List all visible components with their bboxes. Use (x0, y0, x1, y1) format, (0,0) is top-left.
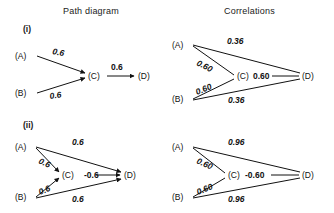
node-d: (D) (302, 170, 314, 180)
panel-path-diagram-ii: (A) (B) (C) (D) 0.6 0.6 -0.6 0.6 0.6 (15, 137, 136, 204)
node-d: (D) (138, 71, 150, 81)
edge-label-a-c: 0.60 (195, 156, 214, 172)
edge-label-c-d: 0.6 (111, 62, 123, 72)
panel-correlations-ii: (A) (B) (C) (D) 0.96 0.60 -0.60 0.60 0.9… (172, 137, 314, 204)
edge-label-b-d: 0.36 (228, 95, 245, 105)
diagram-svg: (A) (B) (C) (D) 0.6 0.6 0.6 (A) (B) (C) … (0, 0, 334, 213)
node-c: (C) (88, 71, 100, 81)
figure-canvas: Path diagram Correlations (i) (ii) (A) (… (0, 0, 334, 213)
edge-label-a-d: 0.6 (72, 137, 84, 147)
edge-label-a-c: 0.6 (37, 156, 52, 170)
edge-label-c-d: 0.60 (253, 71, 270, 81)
node-c: (C) (228, 170, 240, 180)
edge-b-to-c (37, 78, 85, 93)
node-d: (D) (302, 71, 314, 81)
edge-label-a-c: 0.6 (52, 46, 66, 58)
node-b: (B) (15, 88, 27, 98)
node-a: (A) (172, 142, 184, 152)
node-c: (C) (62, 170, 74, 180)
panel-path-diagram-i: (A) (B) (C) (D) 0.6 0.6 0.6 (15, 46, 150, 101)
edge-label-b-d: 0.96 (228, 194, 245, 204)
node-a: (A) (172, 40, 184, 50)
node-d: (D) (124, 170, 136, 180)
edge-label-b-c: 0.60 (194, 81, 213, 97)
edge-a-to-c (37, 56, 85, 73)
node-b: (B) (172, 192, 184, 202)
edge-label-a-d: 0.96 (228, 137, 245, 147)
node-c: (C) (237, 71, 249, 81)
edge-label-a-c: 0.60 (195, 58, 214, 74)
node-b: (B) (15, 192, 27, 202)
node-b: (B) (172, 94, 184, 104)
edge-label-b-d: 0.6 (72, 194, 84, 204)
panel-correlations-i: (A) (B) (C) (D) 0.36 0.60 0.60 0.60 0.36 (172, 36, 314, 105)
edge-label-a-d: 0.36 (227, 36, 244, 46)
edge-label-c-d: -0.6 (84, 170, 99, 180)
edge-label-b-c: 0.6 (49, 89, 62, 101)
edge-label-c-d: -0.60 (245, 170, 265, 180)
node-a: (A) (15, 51, 27, 61)
node-a: (A) (15, 142, 27, 152)
